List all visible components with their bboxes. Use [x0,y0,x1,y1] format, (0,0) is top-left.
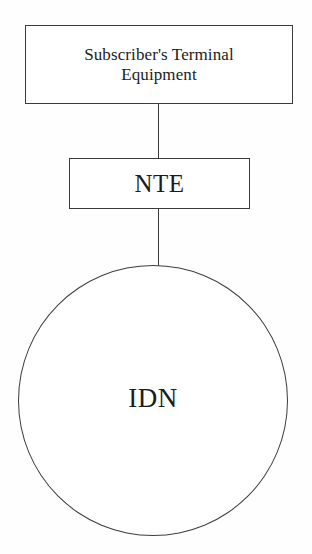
node-terminal-equipment-label: Subscriber's Terminal Equipment [84,45,234,83]
node-idn: IDN [18,265,288,536]
node-nte-label: NTE [135,171,185,196]
node-idn-label: IDN [128,385,178,412]
diagram-canvas: Subscriber's Terminal Equipment NTE IDN [0,0,312,554]
node-terminal-equipment: Subscriber's Terminal Equipment [25,25,293,104]
connector-terminal-equipment-to-nte [158,103,159,159]
connector-nte-to-idn [158,208,159,268]
node-nte: NTE [69,158,250,209]
